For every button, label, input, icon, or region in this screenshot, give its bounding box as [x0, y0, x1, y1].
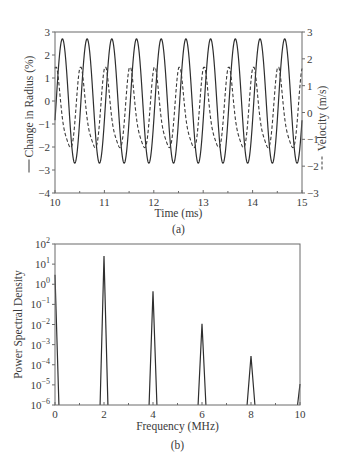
y-right-tick-label: −2 [307, 160, 319, 172]
y-left-tick-label: 3 [45, 26, 51, 38]
y-left-tick-label: 1 [45, 72, 51, 84]
plot-b-frame [55, 244, 300, 405]
x-tick-label: 0 [52, 408, 58, 420]
y-right-tick-label: 0 [307, 107, 313, 119]
y-left-tick-label: −3 [38, 164, 50, 176]
x-tick-label: 2 [101, 408, 107, 420]
svg-text:Velocity (m/s): Velocity (m/s) [316, 86, 329, 152]
radius-curve-solid [55, 39, 302, 163]
plot-a-curves [55, 39, 302, 163]
panel-a-time-series: 1011121314153210−1−2−3−43210−1−2−3 Time … [23, 26, 329, 236]
y-tick-label: 10−3 [30, 337, 50, 351]
y-left-tick-label: 2 [45, 49, 51, 61]
y-left-tick-label: −2 [38, 141, 50, 153]
plot-a-left-axis-label: Change in Radius (%) [23, 55, 36, 172]
y-left-tick-label: −4 [38, 187, 50, 199]
plot-a-x-axis-label: Time (ms) [155, 207, 203, 220]
plot-b-ticks: 024681010210110010−110−210−310−410−510−6 [30, 236, 306, 420]
y-right-tick-label: 2 [307, 53, 313, 65]
y-tick-label: 100 [35, 276, 50, 290]
y-tick-label: 10−5 [30, 377, 50, 391]
svg-text:Change in Radius (%): Change in Radius (%) [23, 55, 36, 157]
y-tick-label: 10−1 [30, 296, 50, 310]
y-tick-label: 10−6 [30, 397, 50, 411]
y-left-tick-label: 0 [45, 95, 51, 107]
x-tick-label: 8 [248, 408, 254, 420]
plot-b-x-axis-label: Frequency (MHz) [136, 420, 219, 433]
x-tick-label: 11 [99, 196, 110, 208]
plot-b-curves [55, 256, 300, 405]
x-tick-label: 10 [50, 196, 62, 208]
y-tick-label: 10−4 [30, 357, 50, 371]
plot-b-caption: (b) [171, 439, 185, 452]
y-tick-label: 10−2 [30, 317, 50, 331]
y-right-tick-label: −3 [307, 187, 319, 199]
plot-b-y-axis-label: Power Spectral Density [12, 270, 25, 379]
y-right-tick-label: 3 [307, 26, 313, 38]
psd-curve [55, 256, 300, 405]
y-tick-label: 102 [35, 236, 50, 250]
figure: 1011121314153210−1−2−3−43210−1−2−3 Time … [0, 0, 345, 469]
y-right-tick-label: 1 [307, 80, 313, 92]
panel-b-spectrum: 024681010210110010−110−210−310−410−510−6… [12, 236, 306, 452]
x-tick-label: 10 [295, 408, 307, 420]
x-tick-label: 14 [247, 196, 259, 208]
plot-a-right-axis-label: Velocity (m/s) [316, 86, 329, 171]
plot-a-caption: (a) [172, 223, 185, 236]
x-tick-label: 6 [199, 408, 205, 420]
y-tick-label: 101 [35, 256, 50, 270]
x-tick-label: 4 [150, 408, 156, 420]
y-left-tick-label: −1 [38, 118, 50, 130]
